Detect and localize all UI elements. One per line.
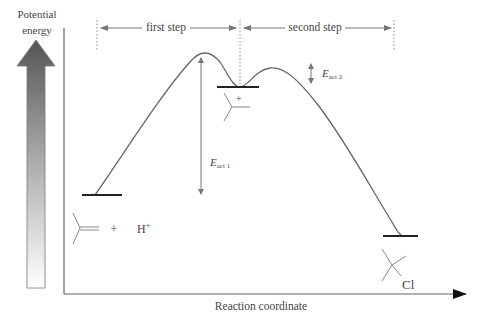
x-axis-label: Reaction coordinate: [215, 300, 307, 312]
eact1-label: Eact 1: [209, 156, 231, 170]
y-axis-label-line1: Potential: [17, 8, 56, 20]
potential-energy-arrow-icon: [17, 40, 55, 288]
reactant-plus-sign: +: [111, 222, 118, 236]
second-step-label: second step: [288, 21, 342, 34]
energy-curve: [95, 53, 404, 236]
alkene-structure-icon: [73, 213, 99, 244]
energy-diagram: Potential energy Reaction coordinate fir…: [0, 0, 477, 315]
carbocation-charge: +: [236, 93, 242, 104]
first-step-label: first step: [146, 21, 186, 34]
chlorine-label: Cl: [402, 277, 415, 292]
y-axis-label-line2: energy: [22, 24, 52, 36]
proton-label: H+: [137, 221, 151, 236]
eact2-label: Eact 2: [321, 67, 343, 81]
